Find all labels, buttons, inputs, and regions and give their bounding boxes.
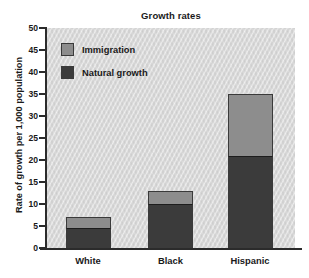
x-axis-label-black: Black [128, 255, 214, 266]
y-tick-label: 5 [16, 222, 38, 231]
chart-container: Growth rates Rate of growth per 1,000 po… [0, 0, 309, 278]
y-tick-mark [39, 247, 45, 249]
legend-swatch-natural-growth-icon [61, 66, 74, 79]
y-tick-label: 45 [16, 46, 38, 55]
y-tick-mark [39, 203, 45, 205]
bar-segment-natural-growth[interactable] [148, 204, 193, 248]
y-tick-label: 0 [16, 244, 38, 253]
y-tick-label: 25 [16, 134, 38, 143]
y-tick-mark [39, 137, 45, 139]
y-tick-label: 40 [16, 68, 38, 77]
x-axis-label-white: White [45, 255, 131, 266]
chart-title: Growth rates [47, 10, 295, 21]
bar-group-black[interactable] [148, 191, 193, 248]
bar-segment-natural-growth[interactable] [228, 156, 273, 248]
x-axis-line [40, 248, 302, 250]
bar-segment-immigration[interactable] [148, 191, 193, 204]
y-tick-mark [39, 225, 45, 227]
legend-label-natural-growth: Natural growth [82, 68, 148, 78]
y-tick-label: 15 [16, 178, 38, 187]
bar-group-hispanic[interactable] [228, 94, 273, 248]
y-tick-mark [39, 93, 45, 95]
legend-item-immigration: Immigration [61, 41, 148, 58]
bar-group-white[interactable] [66, 217, 111, 248]
x-axis-label-hispanic: Hispanic [207, 255, 293, 266]
legend-swatch-immigration-icon [61, 43, 74, 56]
y-tick-mark [39, 181, 45, 183]
y-tick-label: 35 [16, 90, 38, 99]
y-tick-mark [39, 49, 45, 51]
bar-segment-immigration[interactable] [66, 217, 111, 228]
y-tick-label: 50 [16, 24, 38, 33]
y-tick-mark [39, 71, 45, 73]
y-tick-label: 30 [16, 112, 38, 121]
y-tick-label: 10 [16, 200, 38, 209]
y-tick-mark [39, 27, 45, 29]
y-tick-mark [39, 115, 45, 117]
y-tick-label: 20 [16, 156, 38, 165]
chart-legend: Immigration Natural growth [61, 41, 148, 87]
y-axis-line [45, 27, 47, 249]
bar-segment-natural-growth[interactable] [66, 228, 111, 248]
y-tick-mark [39, 159, 45, 161]
legend-label-immigration: Immigration [82, 45, 135, 55]
legend-item-natural-growth: Natural growth [61, 64, 148, 81]
bar-segment-immigration[interactable] [228, 94, 273, 156]
